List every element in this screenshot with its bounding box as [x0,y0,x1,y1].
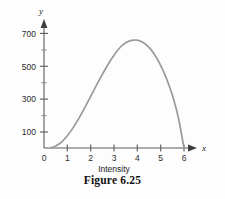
x-tick-label-3: 3 [112,153,117,163]
plot-area: 700 500 300 100 0 1 2 3 4 5 6 y x Intens… [0,0,225,175]
figure-container: 700 500 300 100 0 1 2 3 4 5 6 y x Intens… [0,0,225,199]
x-tick-label-6: 6 [182,153,187,163]
x-tick-label-5: 5 [158,153,163,163]
data-curve [51,40,184,148]
y-tick-label-700: 700 [22,29,36,39]
x-tick-label-4: 4 [135,153,140,163]
y-tick-label-100: 100 [22,127,36,137]
y-axis-label: y [38,6,43,16]
figure-caption: Figure 6.25 [0,174,225,186]
x-axis-title: Intensity [98,164,130,174]
y-axis-arrow-icon [41,19,48,28]
x-axis-label: x [201,143,206,153]
y-tick-label-500: 500 [22,62,36,72]
x-tick-label-1: 1 [65,153,70,163]
x-tick-label-2: 2 [88,153,93,163]
y-tick-label-300: 300 [22,94,36,104]
x-axis-arrow-icon [188,145,197,152]
x-tick-label-0: 0 [42,153,47,163]
